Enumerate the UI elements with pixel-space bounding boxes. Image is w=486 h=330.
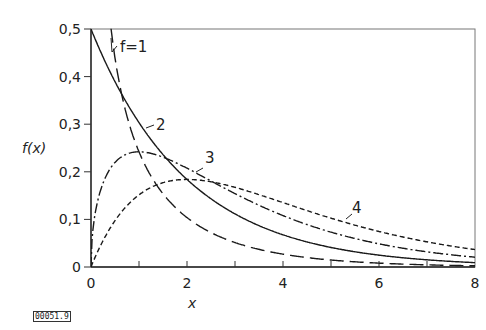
y-axis-title: f(x) bbox=[22, 140, 46, 156]
curve-label: 2 bbox=[156, 116, 166, 134]
y-tick-label: 0,2 bbox=[59, 164, 81, 180]
figure-id-label: 00051.9 bbox=[33, 311, 71, 322]
curve-f3 bbox=[91, 152, 475, 267]
y-tick-label: 0,5 bbox=[59, 21, 81, 37]
chi-square-density-chart: 00,10,20,30,40,5 02468 f=1234 f(x) x bbox=[0, 0, 486, 330]
x-axis-title: x bbox=[187, 295, 197, 311]
y-tick-label: 0,4 bbox=[59, 69, 81, 85]
curve-f1 bbox=[94, 0, 475, 266]
curve-label: 3 bbox=[205, 149, 215, 167]
x-tick-label: 0 bbox=[87, 275, 96, 291]
y-axis: 00,10,20,30,40,5 bbox=[59, 21, 91, 275]
y-tick-label: 0,3 bbox=[59, 116, 81, 132]
leader-line bbox=[196, 168, 203, 172]
x-tick-label: 6 bbox=[375, 275, 384, 291]
x-tick-label: 2 bbox=[183, 275, 192, 291]
x-tick-label: 8 bbox=[471, 275, 480, 291]
curve-f2 bbox=[91, 29, 475, 263]
y-tick-label: 0,1 bbox=[59, 211, 81, 227]
curve-label: f=1 bbox=[120, 38, 147, 56]
curve-labels: f=1234 bbox=[111, 38, 362, 219]
x-tick-label: 4 bbox=[279, 275, 288, 291]
curves bbox=[91, 0, 475, 267]
x-axis: 02468 bbox=[87, 261, 480, 291]
plot-frame bbox=[91, 29, 475, 267]
curve-label: 4 bbox=[352, 199, 362, 217]
y-tick-label: 0 bbox=[72, 259, 81, 275]
leader-line bbox=[146, 125, 154, 128]
